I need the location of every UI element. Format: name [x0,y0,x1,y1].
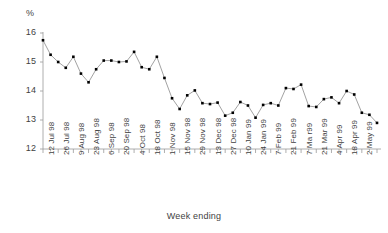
data-point-markers [42,39,379,124]
data-point-marker [353,93,356,96]
data-point-marker [72,55,75,58]
data-point-marker [80,72,83,75]
data-point-marker [269,102,272,105]
data-point-marker [231,111,234,114]
data-point-marker [376,122,379,125]
data-point-marker [102,59,105,62]
data-point-marker [277,104,280,107]
x-axis-tick-label: 18 Apr 99 [350,120,359,155]
data-point-marker [300,83,303,86]
x-axis-tick-label: 4 Apr 99 [335,124,344,155]
x-axis-tick-label: 18 Oct 98 [153,119,162,155]
y-axis-tick-label: 16 [18,27,36,37]
x-axis-tick-label: 1 Nov 98 [168,122,177,155]
data-point-marker [87,81,90,84]
y-axis-tick-label: 13 [18,114,36,124]
data-point-marker [110,59,113,62]
x-axis-tick-label: 13 Dec 98 [214,118,223,155]
data-point-marker [64,67,67,70]
y-axis-ticks [40,33,43,149]
data-point-marker [156,55,159,58]
data-point-marker [368,113,371,116]
data-point-marker [133,51,136,54]
data-point-marker [140,66,143,69]
chart-plot-area [0,0,388,233]
x-axis-tick-label: 15 Nov 98 [183,118,192,155]
data-point-marker [262,104,265,107]
data-point-marker [178,108,181,111]
y-axis-tick-label: 12 [18,143,36,153]
x-axis-tick-label: 21 Mar 99 [320,118,329,155]
x-axis-tick-label: 24 Jan 99 [259,119,268,155]
x-axis-tick-label: 10 Jan 99 [244,119,253,155]
line-chart: % 1213141516 12 Jul 9826 Jul 989 Aug 982… [0,0,388,233]
data-point-marker [361,111,364,114]
data-point-marker [118,61,121,64]
data-point-marker [171,97,174,100]
x-axis-tick-label: 23 Aug 98 [92,118,101,155]
data-point-marker [323,98,326,101]
data-point-marker [186,94,189,97]
data-point-marker [345,90,348,93]
data-point-marker [216,101,219,104]
x-axis-tick-label: 7 Feb 99 [274,123,283,155]
x-axis-tick-label: 6 Sep 98 [107,122,116,155]
y-axis-tick-label: 15 [18,56,36,66]
x-axis-tick-label: 26 Jul 98 [62,122,71,155]
x-axis-tick-label: 2 May 99 [365,121,374,155]
data-point-marker [330,96,333,99]
x-axis-tick-label: 20 Sep 98 [122,118,131,155]
data-point-marker [148,68,151,71]
data-point-marker [194,89,197,92]
data-point-marker [49,53,52,56]
data-point-marker [254,116,257,119]
x-axis-tick-label: 9 Aug 98 [77,123,86,155]
y-axis-tick-label: 14 [18,85,36,95]
x-axis-tick-label: 27 Dec 98 [229,118,238,155]
x-axis-tick-label: 29 Nov 98 [198,118,207,155]
data-point-marker [338,102,341,105]
data-point-marker [307,105,310,108]
data-point-marker [315,106,318,109]
x-axis-tick-label: 21 Feb 99 [289,118,298,155]
data-point-marker [285,87,288,90]
x-axis-tick-label: 12 Jul 98 [47,122,56,155]
series-line [43,40,377,123]
data-point-marker [42,39,45,42]
data-point-marker [292,88,295,91]
data-point-marker [125,60,128,63]
data-point-marker [57,61,60,64]
x-axis-tick-label: 4 Oct 98 [138,124,147,155]
data-point-marker [163,77,166,80]
data-point-marker [247,104,250,107]
data-point-marker [224,114,227,117]
data-point-marker [209,103,212,106]
x-axis-title: Week ending [0,211,388,221]
x-axis-tick-label: 7 Ma r99 [305,123,314,155]
data-point-marker [201,102,204,105]
data-point-marker [239,101,242,104]
data-point-marker [95,68,98,71]
